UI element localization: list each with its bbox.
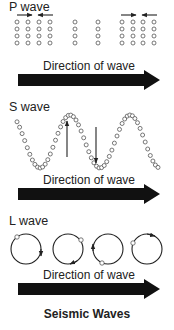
particle <box>96 27 100 31</box>
particle <box>148 154 152 158</box>
particle <box>141 27 145 31</box>
seismic-waves-diagram: P wave Direction of wave S wave Directio… <box>0 0 174 330</box>
particle <box>133 117 137 121</box>
particle <box>25 146 29 150</box>
particle <box>120 20 124 24</box>
particle <box>100 261 104 265</box>
particle <box>73 34 77 38</box>
particle <box>46 158 50 162</box>
particle <box>87 150 91 154</box>
particle <box>82 136 86 140</box>
particle <box>43 162 47 166</box>
particle <box>120 34 124 38</box>
particle <box>152 20 156 24</box>
particle <box>26 34 30 38</box>
particle <box>156 165 160 169</box>
particle <box>15 27 19 31</box>
particle <box>110 148 114 152</box>
particle <box>15 235 19 239</box>
particle <box>37 20 41 24</box>
particle <box>141 34 145 38</box>
p-wave-panel: P wave Direction of wave <box>9 0 160 90</box>
particle <box>51 145 55 149</box>
particle <box>152 27 156 31</box>
l-wave-orbit-1 <box>11 234 41 264</box>
arrow-left-icon <box>70 261 77 264</box>
particle <box>120 122 124 126</box>
particle <box>48 20 52 24</box>
l-wave-orbit-3 <box>93 234 123 265</box>
particle <box>141 20 145 24</box>
particle <box>77 123 81 127</box>
particle <box>18 125 22 129</box>
particle <box>48 41 52 45</box>
particle <box>120 27 124 31</box>
particle <box>73 41 77 45</box>
particle <box>107 154 111 158</box>
particle <box>143 140 147 144</box>
particle <box>59 125 63 129</box>
l-wave-panel: L wave Direction of wave <box>9 214 162 299</box>
particle <box>48 152 52 156</box>
l-wave-orbit-4 <box>131 234 162 264</box>
particle <box>131 41 135 45</box>
particle <box>15 20 19 24</box>
particle <box>96 20 100 24</box>
particle <box>96 34 100 38</box>
particle <box>54 138 58 142</box>
s-wave-direction-label: Direction of wave <box>43 173 135 187</box>
particle <box>136 121 140 125</box>
particle <box>15 34 19 38</box>
particle <box>15 41 19 45</box>
particle <box>131 27 135 31</box>
particle <box>141 133 145 137</box>
p-wave-direction-label: Direction of wave <box>43 59 135 73</box>
particle <box>105 160 109 164</box>
particle <box>48 27 52 31</box>
particle <box>61 120 65 124</box>
particle <box>73 20 77 24</box>
particle <box>112 141 116 145</box>
particle <box>96 41 100 45</box>
particle <box>152 41 156 45</box>
direction-arrow-icon <box>18 184 160 204</box>
particle <box>37 41 41 45</box>
p-wave-particles <box>15 20 156 45</box>
particle <box>79 129 83 133</box>
direction-arrow-icon <box>18 279 160 299</box>
particle <box>131 20 135 24</box>
s-wave-particles <box>15 113 160 170</box>
direction-arrow-icon <box>18 70 160 90</box>
particle <box>115 134 119 138</box>
particle <box>102 164 106 168</box>
p-wave-label: P wave <box>9 0 50 14</box>
particle <box>23 139 27 143</box>
particle <box>131 241 135 245</box>
particle <box>141 41 145 45</box>
particle <box>26 41 30 45</box>
particle <box>118 127 122 131</box>
particle <box>56 131 60 135</box>
particle <box>48 34 52 38</box>
particle <box>28 152 32 156</box>
particle <box>26 27 30 31</box>
particle <box>151 159 155 163</box>
particle <box>73 27 77 31</box>
particle <box>89 156 93 160</box>
particle <box>26 20 30 24</box>
l-wave-label: L wave <box>9 214 48 228</box>
s-wave-label: S wave <box>9 100 50 114</box>
particle <box>37 27 41 31</box>
particle <box>120 41 124 45</box>
particle <box>74 118 78 122</box>
particle <box>152 34 156 38</box>
particle <box>146 147 150 151</box>
particle <box>30 158 34 162</box>
particle <box>79 238 83 242</box>
particle <box>37 34 41 38</box>
particle <box>84 143 88 147</box>
figure-title: Seismic Waves <box>44 307 131 321</box>
particle <box>20 132 24 136</box>
s-wave-panel: S wave Direction of wave <box>9 100 160 204</box>
particle <box>15 120 19 124</box>
